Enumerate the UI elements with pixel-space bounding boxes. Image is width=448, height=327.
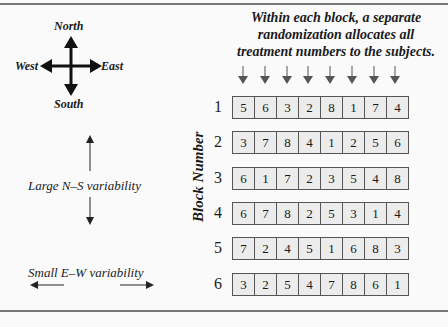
block-row: 72451683 — [232, 237, 409, 260]
treatment-cell: 2 — [298, 97, 320, 118]
down-arrow-icon — [260, 66, 270, 84]
block-label: 1 — [212, 98, 224, 116]
treatment-cell: 4 — [298, 274, 320, 295]
treatment-cell: 3 — [233, 132, 254, 153]
treatment-cell: 1 — [320, 238, 342, 259]
down-arrow-icon — [325, 66, 335, 84]
block-row: 67825314 — [232, 202, 409, 225]
treatment-cell: 2 — [254, 238, 276, 259]
treatment-cell: 6 — [233, 203, 254, 224]
treatment-cell: 8 — [364, 238, 386, 259]
down-arrow-icon — [390, 66, 400, 84]
treatment-cell: 8 — [276, 203, 298, 224]
ns-variability-label: Large N–S variability — [28, 178, 141, 194]
treatment-cell: 8 — [276, 132, 298, 153]
down-arrow-icon — [303, 66, 313, 84]
diagram-title: Within each block, a separate randomizat… — [226, 9, 446, 60]
block-label: 3 — [212, 169, 224, 187]
treatment-cell: 7 — [233, 238, 254, 259]
treatment-cell: 3 — [320, 168, 342, 189]
treatment-cell: 4 — [386, 203, 408, 224]
treatment-cell: 7 — [320, 274, 342, 295]
compass-icon — [40, 36, 102, 96]
treatment-cell: 3 — [342, 203, 364, 224]
treatment-cell: 2 — [298, 168, 320, 189]
treatment-cell: 4 — [364, 168, 386, 189]
title-line-1: Within each block, a separate — [226, 9, 446, 26]
bottom-rule — [0, 310, 448, 312]
title-line-3: treatment numbers to the subjects. — [226, 43, 446, 60]
treatment-cell: 4 — [298, 132, 320, 153]
treatment-cell: 1 — [254, 168, 276, 189]
top-rule — [0, 3, 448, 5]
treatment-cell: 4 — [276, 238, 298, 259]
treatment-cell: 2 — [254, 274, 276, 295]
arrow-right-icon — [120, 281, 154, 289]
compass-east-label: East — [101, 59, 123, 74]
treatment-cell: 6 — [364, 274, 386, 295]
down-arrow-icon — [282, 66, 292, 84]
treatment-cell: 2 — [342, 132, 364, 153]
treatment-cell: 6 — [342, 238, 364, 259]
block-label: 5 — [212, 239, 224, 257]
treatment-cell: 4 — [386, 97, 408, 118]
block-row: 32547861 — [232, 273, 409, 296]
block-label: 6 — [212, 275, 224, 293]
treatment-cell: 6 — [254, 97, 276, 118]
treatment-cell: 1 — [342, 97, 364, 118]
treatment-cell: 5 — [320, 203, 342, 224]
block-number-axis-label: Block Number — [190, 132, 207, 222]
block-row: 37841256 — [232, 131, 409, 154]
treatment-cell: 5 — [233, 97, 254, 118]
treatment-cell: 3 — [386, 238, 408, 259]
arrow-down-icon — [86, 197, 94, 225]
treatment-cell: 8 — [386, 168, 408, 189]
down-arrow-icon — [369, 66, 379, 84]
treatment-cell: 7 — [254, 203, 276, 224]
compass-west-label: West — [15, 59, 38, 74]
treatment-cell: 5 — [364, 132, 386, 153]
block-row: 61723548 — [232, 167, 409, 190]
arrow-up-icon — [86, 135, 94, 171]
treatment-cell: 6 — [233, 168, 254, 189]
compass-north-label: North — [54, 19, 83, 34]
block-label: 4 — [212, 204, 224, 222]
treatment-cell: 5 — [298, 238, 320, 259]
treatment-cell: 7 — [276, 168, 298, 189]
compass-south-label: South — [54, 97, 83, 112]
treatment-cell: 1 — [364, 203, 386, 224]
treatment-cell: 3 — [233, 274, 254, 295]
treatment-cell: 5 — [276, 274, 298, 295]
treatment-cell: 3 — [276, 97, 298, 118]
block-row: 56328174 — [232, 96, 409, 119]
treatment-cell: 2 — [298, 203, 320, 224]
treatment-cell: 1 — [320, 132, 342, 153]
down-arrow-icon — [238, 66, 248, 84]
block-label: 2 — [212, 133, 224, 151]
treatment-cell: 7 — [254, 132, 276, 153]
title-line-2: randomization allocates all — [226, 26, 446, 43]
treatment-cell: 1 — [386, 274, 408, 295]
down-arrow-icon — [347, 66, 357, 84]
ew-variability-label: Small E–W variability — [28, 265, 144, 281]
arrow-left-icon — [30, 281, 64, 289]
treatment-cell: 5 — [342, 168, 364, 189]
treatment-cell: 7 — [364, 97, 386, 118]
treatment-cell: 8 — [320, 97, 342, 118]
treatment-cell: 8 — [342, 274, 364, 295]
treatment-cell: 6 — [386, 132, 408, 153]
